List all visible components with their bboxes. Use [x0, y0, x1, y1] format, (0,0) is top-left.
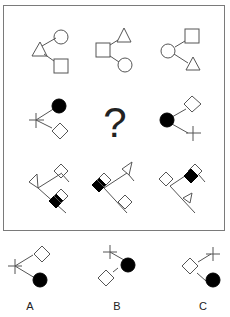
triangle-flag-icon — [29, 174, 38, 188]
diamond-icon — [98, 270, 114, 286]
filled-diamond-icon — [92, 178, 106, 192]
filled-diamond-icon — [49, 194, 63, 208]
option-a-figure[interactable] — [8, 246, 50, 287]
option-b-figure[interactable] — [98, 245, 135, 286]
diamond-icon — [52, 123, 68, 139]
diamond-icon — [34, 246, 50, 262]
cell-r1c3 — [161, 29, 200, 70]
diamond-icon — [159, 172, 173, 186]
cross-icon — [8, 259, 22, 274]
option-c-figure[interactable] — [182, 247, 220, 287]
circle-icon — [118, 58, 132, 72]
cross-icon — [186, 126, 201, 141]
circle-icon — [161, 44, 175, 58]
square-icon — [54, 59, 68, 73]
filled-circle-icon — [206, 273, 220, 287]
option-b-label[interactable]: B — [107, 300, 127, 312]
cross-icon — [29, 113, 44, 128]
square-icon — [185, 29, 199, 43]
cross-icon — [206, 247, 220, 261]
filled-circle-icon — [33, 273, 47, 287]
cell-r3c1 — [29, 164, 69, 213]
option-a-label[interactable]: A — [20, 300, 40, 312]
cross-icon — [103, 245, 117, 259]
triangle-flag-icon — [122, 162, 132, 175]
triangle-icon — [117, 28, 131, 42]
cell-r1c1 — [32, 30, 68, 73]
circle-icon — [54, 30, 68, 44]
diamond-icon — [118, 195, 132, 209]
cell-r2c1 — [29, 99, 68, 139]
cell-r3c3 — [159, 164, 205, 213]
cell-r2c3 — [160, 96, 201, 141]
cell-r1c2 — [96, 28, 132, 72]
filled-circle-icon — [52, 99, 66, 113]
diamond-icon — [182, 258, 198, 274]
diamond-icon — [184, 96, 201, 112]
cell-r3c2 — [92, 162, 134, 213]
filled-diamond-icon — [184, 169, 198, 183]
filled-circle-icon — [160, 113, 174, 127]
filled-circle-icon — [121, 258, 135, 272]
option-c-label[interactable]: C — [193, 300, 213, 312]
puzzle-figures — [0, 0, 230, 317]
triangle-icon — [186, 57, 200, 70]
missing-cell-question-mark: ? — [100, 100, 130, 146]
diamond-icon — [54, 164, 68, 178]
square-icon — [96, 43, 110, 57]
